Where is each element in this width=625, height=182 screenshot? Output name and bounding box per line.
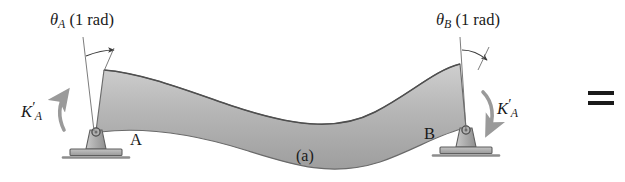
left-pin-center (95, 131, 98, 134)
support-left-pin (63, 128, 129, 158)
equals-bar-top (588, 91, 614, 95)
stiffness-left-subscript: A (35, 109, 42, 123)
left-tangent-reference (104, 48, 114, 71)
right-base-plate (440, 147, 492, 154)
beam-stiffness-figure: θA (1 rad) θB (1 rad) K′A K′A A B (a) (0, 0, 625, 182)
left-moment-curve (60, 93, 66, 130)
figure-caption: (a) (296, 148, 314, 164)
deflected-beam (96, 64, 466, 169)
stiffness-right-label: K′A (497, 97, 518, 120)
moment-arrow-left (60, 93, 66, 130)
point-b-label: B (424, 126, 435, 143)
point-a-label: A (130, 132, 142, 149)
theta-b-symbol: θ (436, 10, 444, 29)
theta-a-value: (1 rad) (70, 10, 114, 29)
equals-bar-bottom (588, 101, 614, 105)
right-moment-curve (483, 92, 492, 132)
theta-b-value: (1 rad) (456, 10, 500, 29)
stiffness-left-label: K′A (21, 100, 42, 123)
theta-b-label: θB (1 rad) (436, 12, 500, 31)
stiffness-right-subscript: A (511, 106, 518, 120)
theta-a-label: θA (1 rad) (50, 12, 114, 31)
right-tangent-reference (478, 47, 489, 70)
left-angle-arc (86, 50, 114, 56)
moment-arrow-right (483, 92, 492, 132)
stiffness-right-symbol: K (497, 99, 508, 118)
left-base-plate (70, 149, 122, 156)
left-vertical-reference (83, 37, 94, 131)
equals-sign (588, 91, 614, 106)
theta-a-symbol: θ (50, 10, 58, 29)
stiffness-left-symbol: K (21, 102, 32, 121)
